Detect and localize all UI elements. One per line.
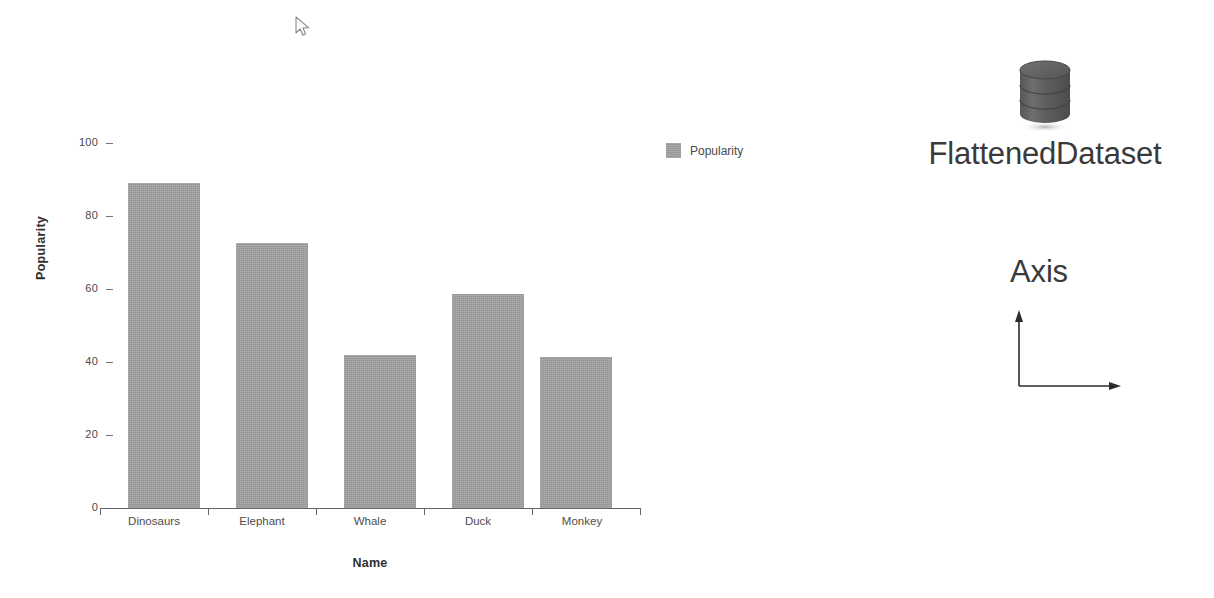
bar-dinosaurs[interactable] — [128, 183, 200, 508]
y-tick-label: 0 — [92, 501, 98, 513]
x-tick-mark — [100, 508, 101, 515]
legend-label-popularity: Popularity — [690, 144, 743, 158]
y-tick-80: 80 — [62, 209, 98, 223]
y-tick-0: 0 — [62, 501, 98, 515]
y-tick-40: 40 — [62, 355, 98, 369]
y-tick-label: 100 — [79, 136, 98, 148]
plot-area — [100, 143, 640, 508]
axes-arrows-icon — [1007, 306, 1127, 396]
x-tick-mark — [424, 508, 425, 515]
legend-swatch-popularity — [666, 143, 681, 158]
y-tick-label: 80 — [85, 209, 98, 221]
bar-monkey[interactable] — [540, 357, 612, 508]
y-tick-label: 40 — [85, 355, 98, 367]
bar-duck[interactable] — [452, 294, 524, 508]
bar-whale[interactable] — [344, 355, 416, 508]
flattened-dataset-label: FlattenedDataset — [895, 138, 1195, 171]
mouse-pointer-icon — [295, 16, 311, 38]
flattened-dataset-node[interactable]: FlattenedDataset — [895, 58, 1195, 171]
y-axis-title: Popularity — [34, 216, 48, 280]
x-category-label-dinosaurs: Dinosaurs — [100, 515, 208, 527]
x-category-label-elephant: Elephant — [208, 515, 316, 527]
axis-node[interactable]: Axis — [955, 255, 1175, 396]
bar-elephant[interactable] — [236, 243, 308, 508]
y-tick-20: 20 — [62, 428, 98, 442]
y-tick-60: 60 — [62, 282, 98, 296]
x-tick-mark — [316, 508, 317, 515]
x-category-label-whale: Whale — [316, 515, 424, 527]
x-axis-title: Name — [100, 556, 640, 570]
bar-chart-panel: 100 80 60 40 20 0 Dinosaurs Elephant Wha… — [0, 0, 700, 598]
x-axis-line — [100, 508, 641, 509]
chart-legend: Popularity — [666, 143, 743, 158]
x-category-label-monkey: Monkey — [528, 515, 636, 527]
y-tick-label: 60 — [85, 282, 98, 294]
y-tick-label: 20 — [85, 428, 98, 440]
x-category-label-duck: Duck — [424, 515, 532, 527]
x-tick-mark — [532, 508, 533, 515]
x-tick-mark — [640, 508, 641, 515]
database-cylinder-icon — [1012, 58, 1078, 132]
y-tick-100: 100 — [62, 136, 98, 150]
x-tick-mark — [208, 508, 209, 515]
axis-label: Axis — [955, 255, 1123, 289]
